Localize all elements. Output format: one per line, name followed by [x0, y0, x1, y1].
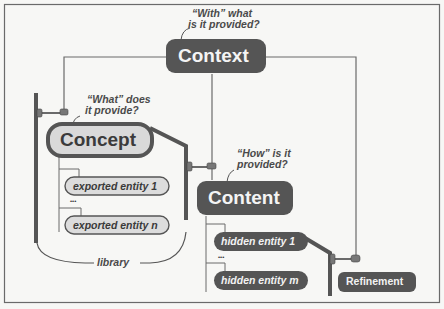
concept-top-joint [60, 109, 68, 115]
hidden-entity-1[interactable]: hidden entity 1 [221, 236, 295, 247]
hidden-entity-m[interactable]: hidden entity m [221, 275, 299, 286]
content-question: “How” is it provided? [237, 148, 291, 170]
content-right-joint [330, 254, 335, 264]
refinement-node[interactable]: Refinement [346, 276, 403, 287]
concept-right-joint [187, 162, 192, 171]
exported-entity-1[interactable]: exported entity 1 [73, 181, 157, 192]
concept-left-joint [37, 109, 42, 117]
library-label: library [97, 257, 129, 268]
context-question-line-2: is it provided? [188, 19, 260, 30]
context-node[interactable]: Context [178, 46, 249, 65]
content-node[interactable]: Content [208, 188, 280, 207]
exported-entity-ellipsis: ••• [70, 198, 76, 204]
concept-node[interactable]: Concept [60, 130, 136, 149]
library-curve [37, 243, 94, 263]
content-question-line-2: provided? [237, 159, 291, 170]
context-question: “With” what is it provided? [188, 8, 260, 30]
diagram-canvas: “With” what is it provided? Context “Wha… [0, 0, 444, 309]
exported-entity-n[interactable]: exported entity n [73, 220, 158, 231]
refinement-top-joint [351, 255, 360, 262]
concept-right-bar [150, 128, 186, 220]
hidden-entity-ellipsis: ••• [218, 254, 224, 260]
content-top-joint [207, 163, 216, 169]
concept-question-line-2: it provide? [85, 105, 151, 116]
concept-question: “What” does it provide? [85, 94, 151, 116]
